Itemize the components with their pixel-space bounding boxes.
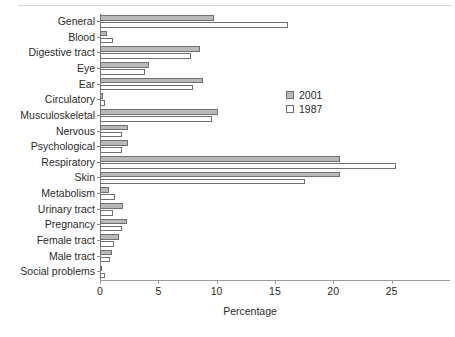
chart-row: Urinary tract — [100, 202, 445, 218]
legend-entry-2001: 2001 — [286, 88, 322, 102]
chart-row: Respiratory — [100, 155, 445, 171]
category-label: Female tract — [0, 233, 95, 249]
chart-row: Eye — [100, 61, 445, 77]
x-axis-tick-label: 5 — [143, 285, 173, 297]
legend-label-1987: 1987 — [299, 103, 322, 115]
category-label: Male tract — [0, 249, 95, 265]
chart-row: Metabolism — [100, 186, 445, 202]
chart-row: Psychological — [100, 139, 445, 155]
chart-row: Female tract — [100, 233, 445, 249]
bar-1987 — [100, 210, 113, 216]
category-label: Psychological — [0, 139, 95, 155]
x-axis-tick — [100, 280, 101, 284]
x-axis-tick-label: 25 — [377, 285, 407, 297]
chart-row: Blood — [100, 30, 445, 46]
legend-entry-1987: 1987 — [286, 102, 322, 116]
category-label: Metabolism — [0, 186, 95, 202]
category-label: Social problems — [0, 264, 95, 280]
bar-1987 — [100, 22, 288, 28]
x-axis-title: Percentage — [100, 305, 400, 317]
bar-2001 — [100, 125, 128, 131]
bar-1987 — [100, 85, 193, 91]
category-label: Circulatory — [0, 92, 95, 108]
chart-row: Musculoskeletal — [100, 108, 445, 124]
chart-row: Male tract — [100, 249, 445, 265]
chart-row: Social problems — [100, 264, 445, 280]
chart-row: Pregnancy — [100, 217, 445, 233]
bar-1987 — [100, 226, 122, 232]
bar-1987 — [100, 179, 305, 185]
chart-row: Ear — [100, 77, 445, 93]
category-label: Skin — [0, 170, 95, 186]
x-axis-tick — [333, 280, 334, 284]
legend-label-2001: 2001 — [299, 89, 322, 101]
bar-1987 — [100, 100, 105, 106]
bar-2001 — [100, 140, 128, 146]
category-label: Eye — [0, 61, 95, 77]
x-axis-tick-label: 10 — [202, 285, 232, 297]
bar-1987 — [100, 241, 114, 247]
bar-2001 — [100, 187, 109, 193]
legend-swatch-icon-2001 — [286, 91, 294, 99]
chart-row: General — [100, 14, 445, 30]
category-label: Nervous — [0, 124, 95, 140]
bar-1987 — [100, 163, 396, 169]
bar-2001 — [100, 234, 119, 240]
chart-row: Skin — [100, 170, 445, 186]
bar-1987 — [100, 116, 212, 122]
x-axis-tick-label: 15 — [260, 285, 290, 297]
category-label: Urinary tract — [0, 202, 95, 218]
bar-2001 — [100, 62, 149, 68]
bar-2001 — [100, 78, 203, 84]
bar-1987 — [100, 132, 122, 138]
category-label: General — [0, 14, 95, 30]
bar-2001 — [100, 219, 127, 225]
bar-1987 — [100, 69, 145, 75]
bar-1987 — [100, 147, 122, 153]
category-label: Ear — [0, 77, 95, 93]
bar-1987 — [100, 257, 110, 263]
x-axis-tick — [217, 280, 218, 284]
plot-area: GeneralBloodDigestive tractEyeEarCircula… — [100, 14, 445, 280]
chart-row: Nervous — [100, 124, 445, 140]
bar-2001 — [100, 250, 112, 256]
bar-2001 — [100, 156, 340, 162]
legend-swatch-icon-1987 — [286, 105, 294, 113]
category-label: Blood — [0, 30, 95, 46]
bar-2001 — [100, 46, 200, 52]
x-axis-tick-label: 0 — [85, 285, 115, 297]
x-axis-tick-label: 20 — [318, 285, 348, 297]
bar-1987 — [100, 38, 113, 44]
bar-2001 — [100, 172, 340, 178]
x-axis-tick — [275, 280, 276, 284]
category-label: Digestive tract — [0, 45, 95, 61]
chart-legend: 2001 1987 — [286, 88, 322, 116]
bar-2001 — [100, 266, 102, 272]
bar-2001 — [100, 109, 218, 115]
scan-edge-line — [18, 5, 452, 6]
bar-1987 — [100, 273, 105, 279]
bar-2001 — [100, 93, 103, 99]
x-axis-tick — [158, 280, 159, 284]
bar-1987 — [100, 194, 115, 200]
bar-2001 — [100, 31, 107, 37]
chart-row: Digestive tract — [100, 45, 445, 61]
bar-2001 — [100, 15, 214, 21]
category-label: Pregnancy — [0, 217, 95, 233]
category-label: Respiratory — [0, 155, 95, 171]
x-axis-tick — [392, 280, 393, 284]
bar-1987 — [100, 53, 191, 59]
bar-2001 — [100, 203, 123, 209]
bar-chart-figure: GeneralBloodDigestive tractEyeEarCircula… — [0, 0, 455, 337]
chart-row: Circulatory — [100, 92, 445, 108]
category-label: Musculoskeletal — [0, 108, 95, 124]
